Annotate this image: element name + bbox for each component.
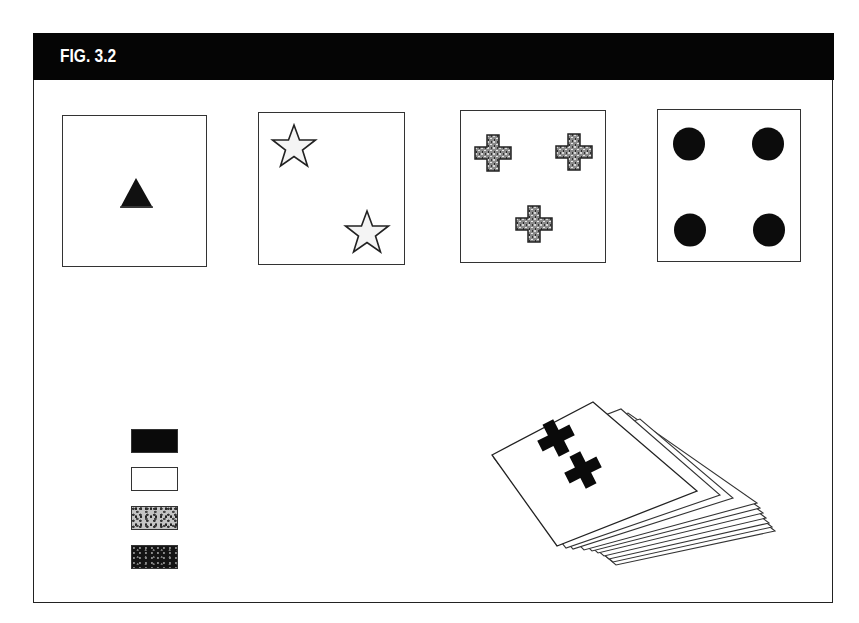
card-deck <box>0 0 859 623</box>
